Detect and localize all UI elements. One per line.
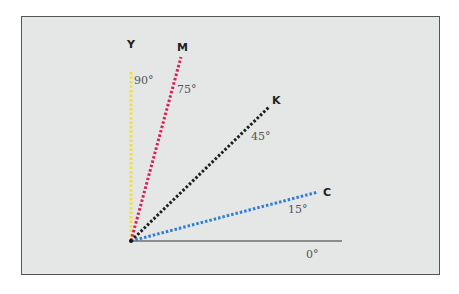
ray-k <box>131 107 269 241</box>
angle-90: 90° <box>134 74 154 87</box>
label-y: Y <box>126 38 136 51</box>
angle-75: 75° <box>177 83 197 96</box>
angle-diagram: Y M K C 90° 75° 45° 15° 0° <box>0 0 459 294</box>
angle-0: 0° <box>306 248 319 261</box>
label-c: C <box>323 186 331 199</box>
origin-point <box>129 239 133 243</box>
angle-45: 45° <box>251 130 271 143</box>
ray-c <box>131 192 318 241</box>
label-m: M <box>177 41 188 54</box>
label-k: K <box>272 94 281 107</box>
angle-15: 15° <box>288 203 308 216</box>
